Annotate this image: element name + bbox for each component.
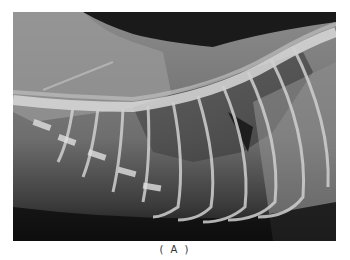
radiograph-svg <box>13 12 336 241</box>
radiograph-image <box>13 12 336 241</box>
figure-caption: ( A ) <box>0 244 350 255</box>
